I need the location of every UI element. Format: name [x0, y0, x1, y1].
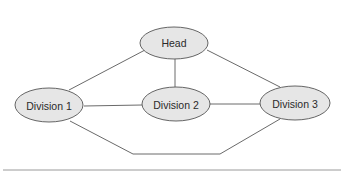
edge-div1-div3-bottom — [70, 119, 280, 154]
node-division-2-label: Division 2 — [153, 99, 199, 111]
node-head-label: Head — [161, 37, 186, 49]
node-head: Head — [140, 27, 208, 59]
node-division-1: Division 1 — [15, 88, 83, 122]
node-division-3-label: Division 3 — [272, 98, 318, 110]
node-division-3: Division 3 — [260, 86, 330, 120]
edge-div1-div2 — [84, 105, 142, 106]
network-diagram: Head Division 1 Division 2 Division 3 — [0, 0, 344, 173]
node-division-1-label: Division 1 — [26, 100, 72, 112]
edge-head-div1 — [69, 50, 145, 90]
node-division-2: Division 2 — [142, 87, 210, 121]
edge-head-div3 — [207, 50, 280, 87]
